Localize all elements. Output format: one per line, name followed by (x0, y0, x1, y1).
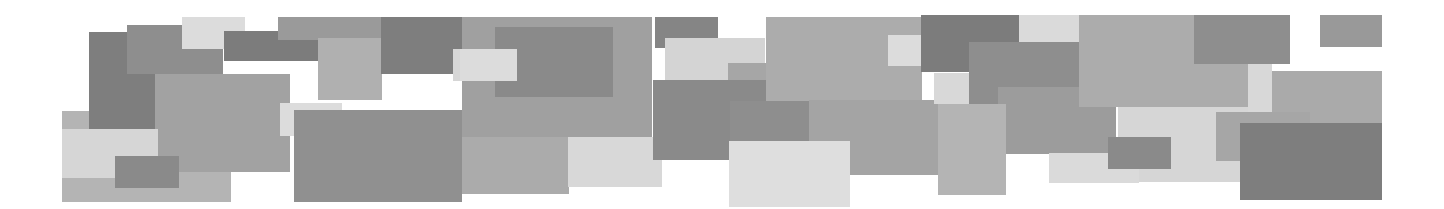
gray-rectangle (278, 17, 384, 40)
gray-rectangle (1240, 123, 1382, 200)
gray-rectangle (1108, 137, 1171, 169)
gray-rectangle (568, 137, 662, 187)
gray-rectangle (1019, 15, 1079, 42)
gray-rectangle (115, 156, 179, 188)
gray-rectangle (730, 101, 811, 141)
gray-rectangle (1194, 15, 1290, 64)
gray-rectangle (460, 49, 517, 81)
gray-rectangle (294, 110, 462, 202)
gray-rectangle (934, 73, 970, 104)
gray-rectangle (318, 38, 382, 100)
gray-rectangle (1248, 64, 1272, 112)
gray-rectangle (1320, 15, 1382, 47)
gray-rectangle (462, 137, 569, 194)
decorative-rectangle-mosaic-banner (0, 0, 1444, 209)
gray-rectangle (729, 141, 850, 207)
gray-rectangle (938, 104, 1006, 195)
